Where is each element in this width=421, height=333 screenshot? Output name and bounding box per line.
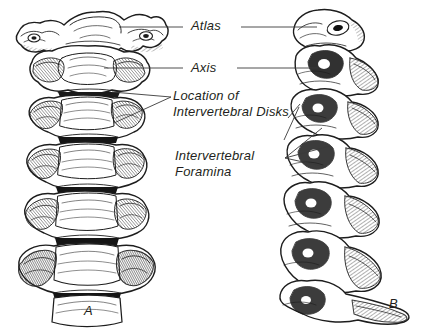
label-disks-line-2: Intervertebral Disks bbox=[173, 104, 289, 120]
vertebra-c3 bbox=[29, 95, 145, 143]
panel-letter-b: B bbox=[389, 296, 398, 311]
label-intervertebral-disks: Location of Intervertebral Disks bbox=[173, 88, 289, 121]
vertebra-c2-axis bbox=[30, 46, 150, 97]
label-atlas: Atlas bbox=[191, 18, 221, 34]
anatomy-figure: Atlas Axis Location of Intervertebral Di… bbox=[0, 0, 421, 333]
vertebra-c4 bbox=[27, 142, 147, 193]
label-foramina-line-1: Intervertebral bbox=[175, 148, 254, 164]
vertebra-c6 bbox=[19, 243, 156, 300]
lateral-c5 bbox=[284, 182, 379, 238]
lateral-c3 bbox=[291, 89, 378, 139]
leader-disks-a-upper bbox=[112, 92, 171, 97]
label-foramina-line-2: Foramina bbox=[175, 164, 254, 180]
label-disks-line-1: Location of bbox=[173, 88, 289, 104]
panel-a-anterior-spine bbox=[16, 11, 168, 326]
label-axis: Axis bbox=[191, 60, 216, 76]
panel-letter-a: A bbox=[84, 303, 93, 318]
vertebra-c5 bbox=[25, 191, 149, 245]
label-intervertebral-foramina: Intervertebral Foramina bbox=[175, 148, 254, 181]
lateral-c2-axis bbox=[295, 45, 378, 96]
panel-b-lateral-spine bbox=[280, 9, 409, 324]
